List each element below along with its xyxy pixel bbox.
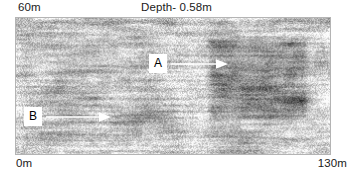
x-axis-start-label: 0m xyxy=(16,157,32,169)
radargram-panel xyxy=(15,17,331,155)
radargram-image xyxy=(16,18,330,154)
gpr-figure: 60m Depth- 0.58m A B 0m 130m xyxy=(0,0,360,175)
y-axis-top-label: 60m xyxy=(18,1,41,13)
depth-title-label: Depth- 0.58m xyxy=(141,1,212,13)
x-axis-end-label: 130m xyxy=(318,157,347,169)
